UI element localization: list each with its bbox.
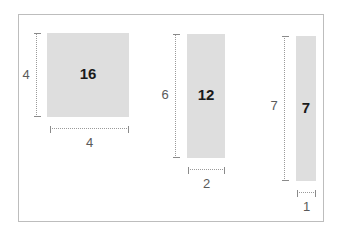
width-dimension-line-shape-3 xyxy=(297,192,316,193)
height-dimension-line-shape-2 xyxy=(175,34,176,158)
height-dimension-label-shape-2: 6 xyxy=(158,88,172,101)
width-dimension-label-shape-2: 2 xyxy=(188,177,225,190)
diagram-canvas: 16 4 4 12 6 2 7 7 1 xyxy=(0,0,342,243)
shape-rectangle-2x6: 12 xyxy=(187,34,225,158)
area-label-12: 12 xyxy=(187,87,225,102)
width-dimension-line-shape-1 xyxy=(50,128,129,129)
height-dimension-line-shape-1 xyxy=(36,33,37,117)
shape-rectangle-1x7: 7 xyxy=(296,36,316,181)
height-dimension-label-shape-1: 4 xyxy=(19,68,33,81)
height-dimension-label-shape-3: 7 xyxy=(267,99,281,112)
width-dimension-label-shape-1: 4 xyxy=(50,136,129,149)
width-dimension-line-shape-2 xyxy=(188,169,225,170)
area-label-16: 16 xyxy=(47,66,129,81)
shape-square-4x4: 16 xyxy=(47,33,129,117)
diagram-frame: 16 4 4 12 6 2 7 7 1 xyxy=(18,14,324,222)
height-dimension-line-shape-3 xyxy=(284,36,285,181)
area-label-7: 7 xyxy=(296,100,316,115)
width-dimension-label-shape-3: 1 xyxy=(297,200,316,213)
